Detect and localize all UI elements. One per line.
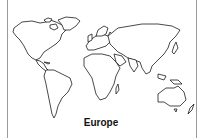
arctic-islands [44,18,52,22]
australia [158,86,186,106]
africa [84,54,120,100]
tasmania [174,109,177,112]
southeast-asia-islands [158,74,166,80]
world-map-outline [10,14,196,122]
japan [172,42,178,54]
new-guinea [170,80,182,84]
map-label: Europe [0,117,202,128]
caribbean [44,62,50,64]
north-america [13,20,66,60]
world-map [10,14,196,122]
madagascar [116,84,119,94]
scandinavia [96,26,108,36]
new-zealand [188,104,194,114]
central-america [36,60,48,71]
south-america [44,70,72,118]
